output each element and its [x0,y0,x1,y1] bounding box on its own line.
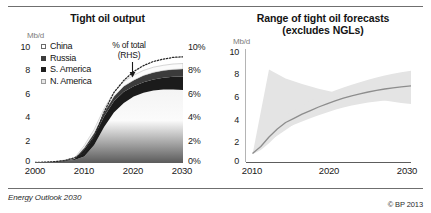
legend-label-s-america: S. America [50,65,91,74]
left-ytick-10: 10 [8,43,30,52]
legend-label-n-america: N. America [50,77,92,86]
left-ytick-pct-4: 4% [188,113,214,122]
left-chart-legend: China Russia S. America N. America [41,41,92,87]
left-ytick-4: 4 [8,113,30,122]
left-ytick-pct-8: 8% [188,66,214,75]
left-xtick-2020: 2020 [114,166,152,176]
right-ytick-8: 8 [215,70,239,79]
left-chart-panel: Tight oil output Mb/d 10 8 6 4 2 0 10% 8… [0,0,215,188]
left-xtick-2030: 2030 [163,166,201,176]
legend-label-china: China [50,42,72,51]
right-ytick-10: 10 [215,48,239,57]
right-chart-title-line-2: (excludes NGLs) [215,25,431,37]
legend-swatch-n-america [41,79,46,84]
right-xtick-2030: 2030 [388,166,426,176]
legend-swatch-s-america [41,67,46,72]
percent-of-total-annotation: % of total (RHS) [98,40,160,60]
left-y-axis-unit: Mb/d [27,31,44,40]
footer-source-label: Energy Outlook 2030 [8,193,81,202]
right-ytick-0: 0 [215,157,239,166]
right-y-axis-unit: Mb/d [233,37,250,46]
left-chart-title: Tight oil output [0,13,215,25]
annotation-line-2: (RHS) [98,50,160,60]
left-ytick-2: 2 [8,137,30,146]
footer-copyright: © BP 2013 [388,200,423,209]
left-xtick-2010: 2010 [65,166,103,176]
left-ytick-8: 8 [8,66,30,75]
legend-item-china: China [41,41,92,53]
legend-swatch-china [41,44,46,49]
left-xtick-2000: 2000 [16,166,54,176]
slide-root: Tight oil output Mb/d 10 8 6 4 2 0 10% 8… [0,0,431,213]
legend-item-n-america: N. America [41,76,92,88]
right-chart-title: Range of tight oil forecasts (excludes N… [215,13,431,36]
left-ytick-pct-2: 2% [188,137,214,146]
right-chart-panel: Range of tight oil forecasts (excludes N… [215,0,431,188]
legend-label-russia: Russia [50,54,76,63]
annotation-line-1: % of total [98,40,160,50]
legend-item-russia: Russia [41,53,92,65]
right-ytick-2: 2 [215,138,239,147]
left-x-axis [35,162,183,163]
left-ytick-6: 6 [8,90,30,99]
right-ytick-4: 4 [215,116,239,125]
left-ytick-pct-6: 6% [188,90,214,99]
right-x-axis [246,162,411,163]
annotation-down-arrow-icon [128,62,137,78]
right-xtick-2010: 2010 [233,166,271,176]
right-chart-title-line-1: Range of tight oil forecasts [215,13,431,25]
legend-swatch-russia [41,56,46,61]
right-range-band-plot [246,50,411,162]
right-ytick-6: 6 [215,93,239,102]
legend-item-s-america: S. America [41,64,92,76]
right-xtick-2020: 2020 [310,166,348,176]
left-ytick-pct-10: 10% [188,43,214,52]
bottom-divider [8,188,423,189]
